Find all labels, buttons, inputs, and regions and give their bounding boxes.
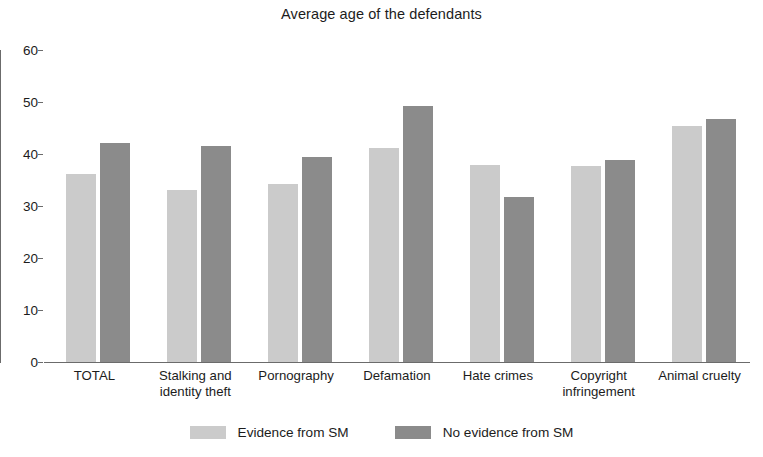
y-axis-tick-label: 50 xyxy=(4,95,38,110)
x-axis-tick-label: Defamation xyxy=(347,368,448,384)
y-axis-tick-mark xyxy=(38,362,43,363)
legend-label: No evidence from SM xyxy=(443,425,574,440)
y-axis-tick-mark xyxy=(38,206,43,207)
y-axis-tick-mark xyxy=(38,258,43,259)
y-axis-tick-mark xyxy=(38,50,43,51)
chart-title: Average age of the defendants xyxy=(0,6,763,22)
bar-group xyxy=(246,50,347,362)
bar xyxy=(100,143,130,362)
x-axis-tick-label: Stalking andidentity theft xyxy=(145,368,246,399)
bar xyxy=(504,197,534,362)
bar-group xyxy=(145,50,246,362)
bar xyxy=(571,166,601,362)
y-axis-tick-label: 20 xyxy=(4,251,38,266)
bar xyxy=(302,157,332,362)
bar-chart: Average age of the defendants 6050403020… xyxy=(0,0,763,457)
bar-group xyxy=(548,50,649,362)
bar-group xyxy=(44,50,145,362)
bar xyxy=(201,146,231,362)
legend-item[interactable]: No evidence from SM xyxy=(395,425,574,440)
bar xyxy=(470,165,500,362)
legend-swatch-icon xyxy=(190,426,226,439)
bar xyxy=(369,148,399,362)
y-axis-tick-label: 60 xyxy=(4,43,38,58)
legend-item[interactable]: Evidence from SM xyxy=(190,425,349,440)
y-axis-tick-mark xyxy=(38,310,43,311)
y-axis-tick-mark xyxy=(38,102,43,103)
x-axis-line xyxy=(44,362,750,363)
x-axis-tick-label: Copyrightinfringement xyxy=(548,368,649,399)
y-axis-line xyxy=(0,50,1,363)
bar xyxy=(268,184,298,362)
y-axis-tick-label: 30 xyxy=(4,199,38,214)
y-axis-tick-mark xyxy=(38,154,43,155)
y-axis-tick-label: 10 xyxy=(4,303,38,318)
legend-swatch-icon xyxy=(395,426,431,439)
y-axis-tick-label: 0 xyxy=(4,355,38,370)
bar xyxy=(605,160,635,362)
bar-group xyxy=(347,50,448,362)
bar-group xyxy=(649,50,750,362)
plot-area xyxy=(44,50,750,362)
chart-legend: Evidence from SMNo evidence from SM xyxy=(0,425,763,440)
bar-group xyxy=(447,50,548,362)
y-axis-labels: 6050403020100 xyxy=(0,50,38,363)
bar xyxy=(66,174,96,362)
bar xyxy=(672,126,702,362)
bar xyxy=(706,119,736,362)
legend-label: Evidence from SM xyxy=(238,425,349,440)
bar xyxy=(167,190,197,362)
x-axis-tick-label: TOTAL xyxy=(44,368,145,384)
bar xyxy=(403,106,433,362)
x-axis-tick-label: Animal cruelty xyxy=(649,368,750,384)
x-axis-tick-label: Pornography xyxy=(246,368,347,384)
x-axis-category-labels: TOTALStalking andidentity theftPornograp… xyxy=(44,368,750,410)
x-axis-tick-label: Hate crimes xyxy=(447,368,548,384)
y-axis-tick-label: 40 xyxy=(4,147,38,162)
